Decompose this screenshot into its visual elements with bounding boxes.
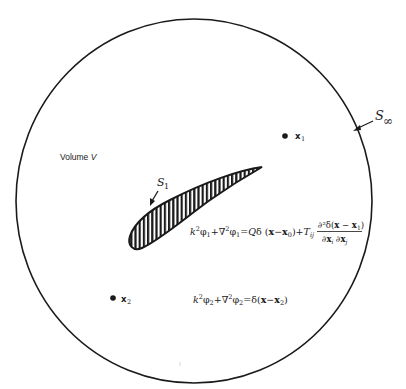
diagram: S ∞ Volume V S 1 x 1 x 2 k2φ1+∇2φ1=Qδ (x… — [0, 0, 406, 389]
svg-text:k2φ1+∇2φ1=Qδ (x−x0)+Tij: k2φ1+∇2φ1=Qδ (x−x0)+Tij — [190, 225, 314, 239]
volume-label: Volume V — [60, 152, 98, 162]
equation-1: k2φ1+∇2φ1=Qδ (x−x0)+Tij ∂²δ(x − x1) ∂xi … — [190, 220, 364, 246]
point-x1-marker — [282, 133, 288, 139]
svg-text:1: 1 — [164, 182, 169, 191]
point-x2-label: x 2 — [121, 294, 131, 306]
svg-text:k2φ2+∇2φ2=δ(x−x2): k2φ2+∇2φ2=δ(x−x2) — [193, 293, 288, 307]
point-x1-label: x 1 — [295, 131, 305, 143]
svg-text:1: 1 — [301, 135, 305, 143]
equation-1-denominator: ∂xi ∂xj — [322, 234, 348, 246]
point-x2-marker — [110, 295, 116, 301]
svg-text:2: 2 — [127, 298, 131, 306]
equation-2: k2φ2+∇2φ2=δ(x−x2) — [193, 293, 288, 307]
svg-text:∞: ∞ — [383, 114, 393, 128]
s1-arrow — [150, 191, 158, 206]
equation-1-numerator: ∂²δ(x − x1) — [318, 220, 364, 231]
s-infinity-label: S ∞ — [375, 108, 393, 128]
s1-label: S 1 — [157, 176, 169, 191]
